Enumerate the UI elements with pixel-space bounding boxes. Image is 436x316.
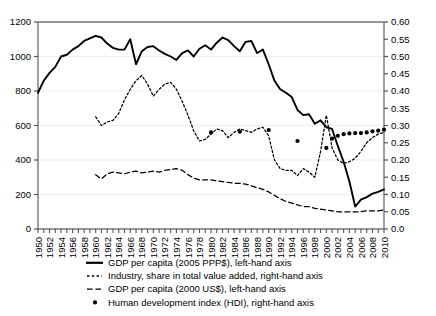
hdi-point [336,134,340,138]
svg-text:800: 800 [15,85,31,96]
svg-text:600: 600 [15,120,31,131]
svg-text:1982: 1982 [217,237,228,258]
hdi-point [238,130,242,134]
legend-swatch-dot-marker [93,300,97,304]
grid-lines [38,22,384,195]
hdi-point [347,131,351,135]
legend-item-label: Human development index (HDI), right-han… [108,297,314,308]
svg-text:1976: 1976 [183,237,194,258]
svg-text:1964: 1964 [113,237,124,258]
hdi-point [365,130,369,134]
svg-text:1968: 1968 [136,237,147,258]
svg-text:1998: 1998 [309,237,320,258]
svg-text:1966: 1966 [125,237,136,258]
x-axis: 1950195219541956195819601962196419661968… [33,229,390,258]
svg-text:1956: 1956 [67,237,78,258]
hdi-point [267,128,271,132]
svg-text:1986: 1986 [240,237,251,258]
chart-figure: 020040060080010001200 0.00.050.100.150.2… [0,0,436,316]
svg-text:0.50: 0.50 [391,51,410,62]
svg-text:1972: 1972 [159,237,170,258]
svg-text:2000: 2000 [321,237,332,258]
svg-text:0.25: 0.25 [391,137,410,148]
legend-item-label: GDP per capita (2005 PPP$), left-hand ax… [108,257,292,268]
svg-text:1996: 1996 [298,237,309,258]
svg-text:1960: 1960 [90,237,101,258]
hdi-point [324,146,328,150]
series-gdp-usd [96,169,384,212]
svg-text:0.15: 0.15 [391,172,410,183]
svg-text:1950: 1950 [33,237,44,258]
hdi-point [342,132,346,136]
chart-legend: GDP per capita (2005 PPP$), left-hand ax… [86,257,323,308]
svg-text:0: 0 [26,223,31,234]
svg-text:1992: 1992 [275,237,286,258]
svg-text:1974: 1974 [171,237,182,258]
svg-text:200: 200 [15,189,31,200]
svg-text:1962: 1962 [102,237,113,258]
hdi-point [295,139,299,143]
hdi-point [330,137,334,141]
svg-text:1980: 1980 [206,237,217,258]
svg-text:1954: 1954 [56,237,67,258]
svg-text:1958: 1958 [79,237,90,258]
svg-text:2002: 2002 [332,237,343,258]
legend-item-label: GDP per capita (2000 US$), left-hand axi… [108,283,286,294]
svg-text:0.20: 0.20 [391,154,410,165]
hdi-point [376,129,380,133]
hdi-point [209,130,213,134]
svg-text:400: 400 [15,154,31,165]
svg-text:1000: 1000 [10,51,31,62]
svg-text:0.05: 0.05 [391,206,410,217]
svg-text:1970: 1970 [148,237,159,258]
svg-text:1978: 1978 [194,237,205,258]
svg-text:2008: 2008 [367,237,378,258]
svg-text:1994: 1994 [286,237,297,258]
hdi-point [353,131,357,135]
hdi-point [382,128,386,132]
svg-text:0.40: 0.40 [391,85,410,96]
svg-text:2006: 2006 [356,237,367,258]
svg-text:1952: 1952 [44,237,55,258]
svg-text:1200: 1200 [10,16,31,27]
hdi-point [370,129,374,133]
svg-text:1984: 1984 [229,237,240,258]
y-axis-left: 020040060080010001200 [10,16,38,234]
svg-text:0.0: 0.0 [391,223,404,234]
series-gdp-ppp [38,36,384,207]
hdi-point [359,131,363,135]
svg-text:0.60: 0.60 [391,16,410,27]
svg-text:1990: 1990 [263,237,274,258]
chart-canvas: 020040060080010001200 0.00.050.100.150.2… [0,0,436,316]
svg-text:0.35: 0.35 [391,103,410,114]
svg-text:2010: 2010 [379,237,390,258]
svg-text:0.10: 0.10 [391,189,410,200]
svg-text:0.30: 0.30 [391,120,410,131]
svg-text:1988: 1988 [252,237,263,258]
svg-text:0.45: 0.45 [391,68,410,79]
legend-item-label: Industry, share in total value added, ri… [108,270,323,281]
svg-text:2004: 2004 [344,237,355,258]
svg-text:0.55: 0.55 [391,34,410,45]
y-axis-right: 0.00.050.100.150.200.250.300.350.400.450… [384,16,410,234]
